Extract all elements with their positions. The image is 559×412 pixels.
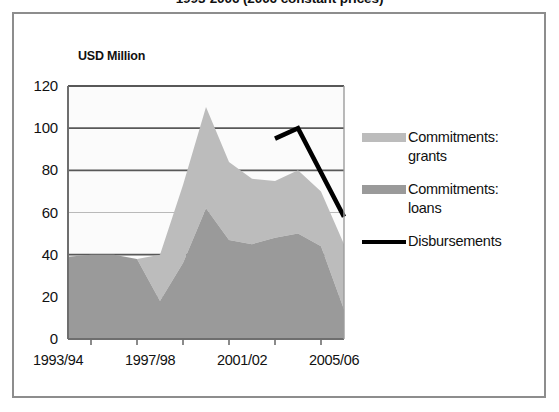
y-tick-label: 60: [14, 204, 58, 221]
legend-item[interactable]: Commitments:loans: [362, 180, 542, 218]
disbursements-line-swatch: [362, 232, 408, 251]
legend-item[interactable]: Disbursements: [362, 232, 542, 251]
y-tick-label: 120: [14, 77, 58, 94]
legend-item-label: Commitments:grants: [408, 128, 498, 166]
grants-swatch-bar: [362, 133, 406, 142]
legend-label-line2: grants: [408, 147, 498, 166]
legend-label-line1: Commitments:: [408, 180, 498, 199]
x-tick-label: 1993/94: [33, 352, 83, 368]
legend-label-line1: Disbursements: [408, 232, 501, 251]
y-tick-label: 20: [14, 288, 58, 305]
chart-figure: 1993-2006 (2006 constant prices) USD Mil…: [0, 0, 559, 412]
legend-label-line2: loans: [408, 199, 498, 218]
x-tick-label: 2005/06: [309, 352, 359, 368]
legend-item[interactable]: Commitments:grants: [362, 128, 542, 166]
y-tick-label: 80: [14, 161, 58, 178]
x-tick-label: 1997/98: [125, 352, 175, 368]
line-swatch-bar: [362, 240, 406, 244]
legend-item-label: Disbursements: [408, 232, 501, 251]
y-tick-label: 100: [14, 119, 58, 136]
legend-label-line1: Commitments:: [408, 128, 498, 147]
loans-swatch-bar: [362, 185, 406, 194]
grants-swatch: [362, 128, 408, 147]
legend-item-label: Commitments:loans: [408, 180, 498, 218]
y-tick-label: 0: [14, 330, 58, 347]
x-tick-label: 2001/02: [217, 352, 267, 368]
loans-swatch: [362, 180, 408, 199]
y-tick-label: 40: [14, 246, 58, 263]
chart-legend: Commitments:grantsCommitments:loansDisbu…: [362, 128, 542, 265]
